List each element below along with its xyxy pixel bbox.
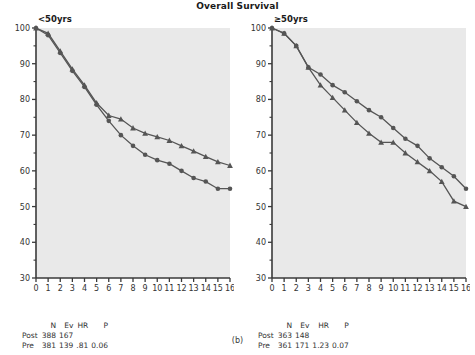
figure-title: Overall Survival bbox=[0, 1, 475, 11]
stats-table-left: NEvHRPPost388167Pre381139.810.06 bbox=[22, 301, 111, 355]
marker-circle bbox=[203, 179, 208, 184]
x-tick-label: 11 bbox=[164, 284, 174, 293]
x-tick-label: 0 bbox=[269, 284, 274, 293]
y-tick-label: 100 bbox=[251, 24, 266, 33]
marker-circle bbox=[367, 108, 372, 113]
marker-circle bbox=[46, 33, 51, 38]
marker-circle bbox=[391, 126, 396, 131]
y-tick-label: 50 bbox=[20, 203, 30, 212]
y-tick-label: 100 bbox=[15, 24, 30, 33]
x-tick-label: 13 bbox=[425, 284, 435, 293]
x-tick-label: 14 bbox=[437, 284, 447, 293]
plot-background bbox=[36, 28, 230, 278]
y-tick-label: 30 bbox=[20, 274, 30, 283]
marker-circle bbox=[427, 156, 432, 161]
stats-col-header: Ev bbox=[295, 321, 312, 331]
x-tick-label: 15 bbox=[213, 284, 223, 293]
x-tick-label: 2 bbox=[58, 284, 63, 293]
x-tick-label: 14 bbox=[201, 284, 211, 293]
stats-col-header bbox=[22, 321, 42, 331]
x-tick-label: 6 bbox=[342, 284, 347, 293]
x-tick-label: 0 bbox=[33, 284, 38, 293]
x-tick-label: 4 bbox=[82, 284, 87, 293]
marker-circle bbox=[403, 136, 408, 141]
chart-panel-right: ≥50yrs 304050607080901000123456789101112… bbox=[238, 14, 470, 314]
y-tick-label: 80 bbox=[256, 95, 266, 104]
figure-caption: (b) bbox=[0, 336, 475, 345]
marker-circle bbox=[228, 186, 233, 191]
marker-circle bbox=[70, 69, 75, 74]
marker-circle bbox=[143, 152, 148, 157]
y-tick-label: 80 bbox=[20, 95, 30, 104]
marker-circle bbox=[167, 161, 172, 166]
y-tick-label: 60 bbox=[20, 167, 30, 176]
marker-circle bbox=[379, 115, 384, 120]
marker-circle bbox=[94, 102, 99, 107]
marker-circle bbox=[106, 119, 111, 124]
marker-circle bbox=[452, 174, 457, 179]
stats-table-right: NEvHRPPost363148Pre3611711.230.07 bbox=[258, 301, 352, 355]
x-tick-label: 7 bbox=[354, 284, 359, 293]
x-tick-label: 8 bbox=[366, 284, 371, 293]
chart-panel-left: <50yrs 304050607080901000123456789101112… bbox=[2, 14, 234, 314]
x-tick-label: 10 bbox=[388, 284, 398, 293]
stats-header-row: NEvHRP bbox=[22, 321, 111, 331]
x-tick-label: 7 bbox=[118, 284, 123, 293]
marker-circle bbox=[179, 169, 184, 174]
marker-circle bbox=[330, 83, 335, 88]
stats-col-header: N bbox=[278, 321, 295, 331]
marker-circle bbox=[82, 85, 87, 90]
y-tick-label: 30 bbox=[256, 274, 266, 283]
stats-col-header: P bbox=[332, 321, 352, 331]
y-tick-label: 40 bbox=[256, 238, 266, 247]
marker-circle bbox=[464, 186, 469, 191]
plot-area-left: 3040506070809010001234567891011121314151… bbox=[2, 14, 234, 314]
x-tick-label: 13 bbox=[189, 284, 199, 293]
x-tick-label: 9 bbox=[379, 284, 384, 293]
plot-area-right: 3040506070809010001234567891011121314151… bbox=[238, 14, 470, 314]
x-tick-label: 1 bbox=[282, 284, 287, 293]
x-tick-label: 12 bbox=[412, 284, 422, 293]
x-tick-label: 2 bbox=[294, 284, 299, 293]
x-tick-label: 10 bbox=[152, 284, 162, 293]
y-tick-label: 90 bbox=[256, 60, 266, 69]
x-tick-label: 16 bbox=[461, 284, 470, 293]
marker-circle bbox=[439, 165, 444, 170]
plot-background bbox=[272, 28, 466, 278]
marker-circle bbox=[119, 133, 124, 138]
marker-circle bbox=[216, 186, 221, 191]
marker-circle bbox=[318, 72, 323, 77]
marker-circle bbox=[155, 158, 160, 163]
marker-circle bbox=[34, 26, 39, 31]
x-tick-label: 8 bbox=[130, 284, 135, 293]
x-tick-label: 9 bbox=[143, 284, 148, 293]
y-tick-label: 70 bbox=[256, 131, 266, 140]
y-tick-label: 90 bbox=[20, 60, 30, 69]
marker-circle bbox=[191, 176, 196, 181]
x-tick-label: 12 bbox=[176, 284, 186, 293]
x-tick-label: 15 bbox=[449, 284, 459, 293]
y-tick-label: 60 bbox=[256, 167, 266, 176]
x-tick-label: 3 bbox=[306, 284, 311, 293]
x-tick-label: 3 bbox=[70, 284, 75, 293]
marker-circle bbox=[355, 99, 360, 104]
y-tick-label: 50 bbox=[256, 203, 266, 212]
x-tick-label: 16 bbox=[225, 284, 234, 293]
marker-circle bbox=[131, 144, 136, 149]
x-tick-label: 1 bbox=[46, 284, 51, 293]
x-tick-label: 4 bbox=[318, 284, 323, 293]
stats-col-header: P bbox=[91, 321, 111, 331]
stats-header-row: NEvHRP bbox=[258, 321, 352, 331]
stats-col-header bbox=[258, 321, 278, 331]
stats-col-header: Ev bbox=[59, 321, 76, 331]
y-tick-label: 40 bbox=[20, 238, 30, 247]
y-tick-label: 70 bbox=[20, 131, 30, 140]
marker-circle bbox=[415, 144, 420, 149]
stats-col-header: N bbox=[42, 321, 59, 331]
marker-circle bbox=[58, 51, 63, 56]
x-tick-label: 6 bbox=[106, 284, 111, 293]
marker-circle bbox=[342, 90, 347, 95]
stats-col-header: HR bbox=[312, 321, 332, 331]
stats-col-header: HR bbox=[76, 321, 91, 331]
x-tick-label: 5 bbox=[330, 284, 335, 293]
